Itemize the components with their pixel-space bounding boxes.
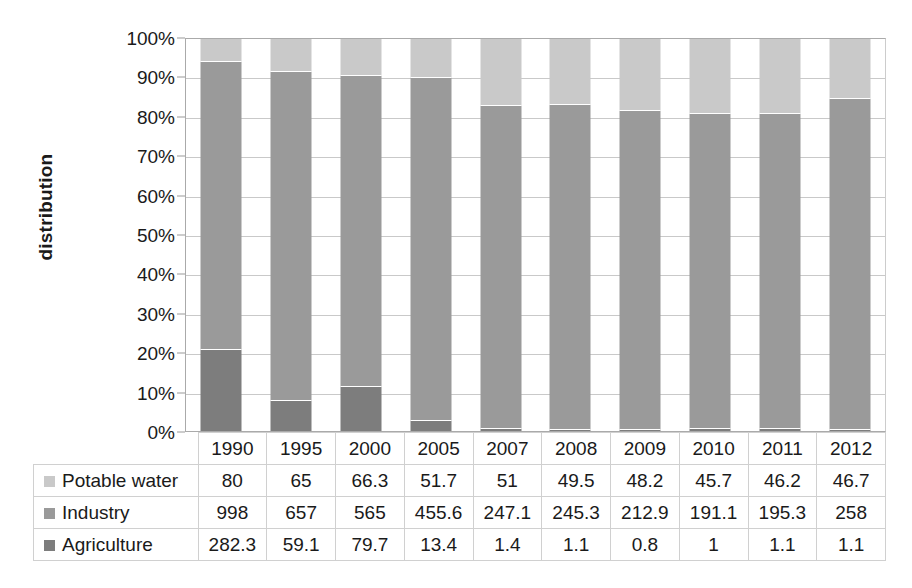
- table-row: Potable water806566.351.75149.548.245.74…: [34, 465, 886, 497]
- bar-segment-agriculture: [200, 350, 241, 431]
- y-axis-tick-mark: [177, 195, 185, 196]
- bar-column: [815, 39, 885, 431]
- table-row: Industry998657565455.6247.1245.3212.9191…: [34, 497, 886, 529]
- table-column-header: 2005: [404, 433, 473, 465]
- table-cell: 212.9: [611, 497, 680, 529]
- bar-segment-industry: [480, 106, 521, 429]
- legend-label: Agriculture: [62, 534, 153, 555]
- table-cell: 46.7: [817, 465, 886, 497]
- table-header-row: 1990199520002005200720082009201020112012: [34, 433, 886, 465]
- table-cell: 51: [473, 465, 542, 497]
- legend-entry-potable-water: Potable water: [34, 465, 199, 497]
- bar-column: [396, 39, 466, 431]
- table-cell: 66.3: [336, 465, 405, 497]
- stacked-bar: [760, 39, 801, 431]
- y-axis-title: distribution: [35, 117, 57, 297]
- bar-segment-industry: [200, 62, 241, 350]
- table-cell: 1.1: [748, 529, 817, 561]
- bar-segment-potable-water: [200, 39, 241, 62]
- table-cell: 247.1: [473, 497, 542, 529]
- bar-segment-industry: [270, 72, 311, 402]
- table-column-header: 1995: [267, 433, 336, 465]
- bar-segment-agriculture: [550, 430, 591, 431]
- table-cell: 46.2: [748, 465, 817, 497]
- y-axis-tick-mark: [177, 274, 185, 275]
- bar-segment-potable-water: [690, 39, 731, 114]
- table-row: Agriculture282.359.179.713.41.41.10.811.…: [34, 529, 886, 561]
- table-cell: 1.1: [542, 529, 611, 561]
- y-axis-tick-mark: [177, 353, 185, 354]
- legend-entry-agriculture: Agriculture: [34, 529, 199, 561]
- table-column-header: 2007: [473, 433, 542, 465]
- y-axis-tick-label: 100%: [126, 29, 175, 48]
- table-cell: 1.4: [473, 529, 542, 561]
- bar-segment-potable-water: [550, 39, 591, 105]
- table-cell: 258: [817, 497, 886, 529]
- stacked-bars: [186, 39, 885, 431]
- table-column-header: 2008: [542, 433, 611, 465]
- bar-segment-potable-water: [270, 39, 311, 72]
- stacked-bar: [410, 39, 451, 431]
- bar-segment-agriculture: [410, 421, 451, 431]
- y-axis-tick-label: 70%: [137, 147, 175, 166]
- table-cell: 282.3: [198, 529, 267, 561]
- bar-column: [186, 39, 256, 431]
- table-column-header: 1990: [198, 433, 267, 465]
- y-axis-tick-label: 10%: [137, 383, 175, 402]
- bar-column: [466, 39, 536, 431]
- bar-segment-industry: [410, 78, 451, 421]
- table-cell: 1: [679, 529, 748, 561]
- bar-column: [256, 39, 326, 431]
- y-axis-tick-mark: [177, 313, 185, 314]
- bar-segment-industry: [690, 114, 731, 429]
- chart-figure: distribution 100%90%80%70%60%50%40%30%20…: [0, 0, 912, 588]
- legend-swatch-icon: [44, 540, 55, 551]
- table-cell: 245.3: [542, 497, 611, 529]
- table-cell: 79.7: [336, 529, 405, 561]
- bar-column: [745, 39, 815, 431]
- bar-column: [675, 39, 745, 431]
- bar-segment-agriculture: [270, 401, 311, 431]
- table-column-header: 2009: [611, 433, 680, 465]
- bar-segment-agriculture: [620, 430, 661, 431]
- bar-segment-industry: [340, 76, 381, 388]
- table-cell: 1.1: [817, 529, 886, 561]
- table-cell: 59.1: [267, 529, 336, 561]
- bar-segment-agriculture: [480, 429, 521, 431]
- bar-segment-agriculture: [340, 387, 381, 431]
- stacked-bar: [340, 39, 381, 431]
- bar-segment-potable-water: [620, 39, 661, 111]
- table-cell: 51.7: [404, 465, 473, 497]
- legend-swatch-icon: [44, 508, 55, 519]
- legend-label: Potable water: [62, 470, 178, 491]
- y-axis-tick-label: 60%: [137, 186, 175, 205]
- y-axis-tick-label: 40%: [137, 265, 175, 284]
- data-table: 1990199520002005200720082009201020112012…: [33, 432, 886, 561]
- table-cell: 0.8: [611, 529, 680, 561]
- table-column-header: 2010: [679, 433, 748, 465]
- y-axis-tick-mark: [177, 392, 185, 393]
- y-axis-tick-label: 90%: [137, 68, 175, 87]
- y-axis-tick-mark: [177, 77, 185, 78]
- table-cell: 49.5: [542, 465, 611, 497]
- bar-segment-agriculture: [760, 429, 801, 431]
- table-cell: 65: [267, 465, 336, 497]
- bar-column: [605, 39, 675, 431]
- y-axis-tick-label: 30%: [137, 304, 175, 323]
- table-cell: 45.7: [679, 465, 748, 497]
- stacked-bar: [830, 39, 871, 431]
- table-corner-blank: [34, 433, 199, 465]
- y-axis-tick-mark: [177, 38, 185, 39]
- table-cell: 657: [267, 497, 336, 529]
- table-cell: 191.1: [679, 497, 748, 529]
- stacked-bar: [200, 39, 241, 431]
- bar-column: [536, 39, 606, 431]
- stacked-bar: [550, 39, 591, 431]
- bar-segment-agriculture: [830, 430, 871, 431]
- stacked-bar: [270, 39, 311, 431]
- stacked-bar: [480, 39, 521, 431]
- y-axis-tick-mark: [177, 235, 185, 236]
- bar-segment-potable-water: [830, 39, 871, 99]
- y-axis-tick-label: 50%: [137, 226, 175, 245]
- table-cell: 80: [198, 465, 267, 497]
